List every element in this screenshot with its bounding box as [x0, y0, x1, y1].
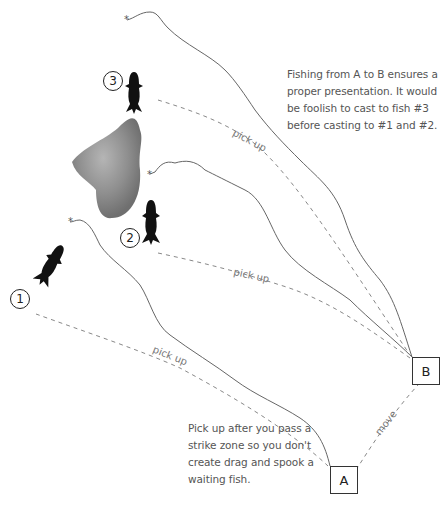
fish-3 [125, 72, 143, 114]
move-label: move [373, 408, 399, 437]
cast-point-3: * [124, 14, 129, 25]
pickup-label-2: pick up [233, 266, 271, 284]
fish-number-2: 2 [120, 228, 140, 248]
station-a: A [330, 466, 358, 494]
fish-number-3: 3 [103, 71, 123, 91]
pickup-line-fish2 [158, 253, 410, 358]
cast-point-1: * [68, 216, 73, 227]
pickup-label-1: pick up [151, 344, 189, 368]
fly-line-fish2 [150, 161, 412, 357]
pickup-label-3: pick up [231, 127, 268, 154]
pickup-line-fish3 [158, 100, 410, 355]
fish-icon [125, 72, 143, 114]
fly-line-fish3 [127, 12, 412, 357]
fish-icon [142, 200, 160, 245]
fish-icon [32, 241, 70, 289]
note-fishing-order: Fishing from A to B ensures a proper pre… [287, 66, 448, 134]
note-pickup-advice: Pick up after you pass a strike zone so … [188, 420, 318, 488]
fish-1 [32, 241, 70, 289]
station-b: B [412, 357, 440, 385]
fish-number-1: 1 [10, 289, 30, 309]
cast-point-2: * [147, 169, 152, 180]
fish-2 [142, 200, 160, 245]
rock-obstacle [72, 118, 141, 218]
